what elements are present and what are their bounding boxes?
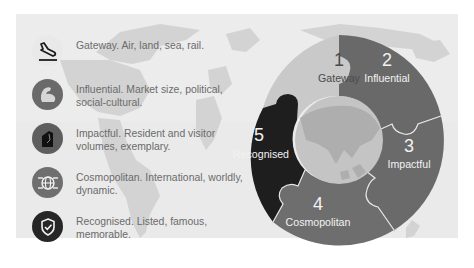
puzzle-wheel	[0, 0, 474, 268]
segment-label-cosmopolitan: Cosmopolitan	[268, 216, 368, 228]
segment-number-2: 2	[352, 50, 422, 71]
segment-number-1: 1	[329, 50, 349, 71]
segment-number-5: 5	[244, 125, 274, 146]
segment-label-impactful: Impactful	[374, 158, 444, 170]
segment-number-3: 3	[384, 136, 434, 157]
segment-label-recognised: Recognised	[226, 148, 296, 160]
segment-label-influential: Influential	[347, 72, 427, 84]
segment-number-4: 4	[303, 194, 333, 215]
infographic-canvas: Gateway. Air, land, sea, rail. Influenti…	[0, 0, 474, 268]
